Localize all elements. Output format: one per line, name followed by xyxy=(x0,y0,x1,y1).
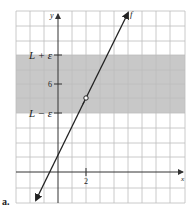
lower-bound-label: L − ε xyxy=(28,107,53,119)
curve-label: f xyxy=(130,9,134,19)
panel-label: a. xyxy=(2,196,10,207)
upper-bound-label: L + ε xyxy=(28,49,53,61)
x-axis-label: x xyxy=(180,175,185,183)
y-axis-label: y xyxy=(49,11,54,20)
limit-epsilon-diagram: y x f L + ε L − ε 6 2 a. xyxy=(0,0,188,211)
x-tick-label: 2 xyxy=(84,177,88,186)
y-tick-label: 6 xyxy=(48,80,52,89)
hole-point xyxy=(84,96,88,100)
